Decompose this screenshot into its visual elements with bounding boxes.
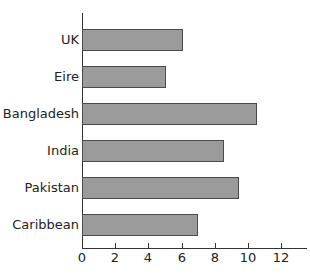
x-tick-label-2: 2 [100,250,130,266]
bar-india [82,140,224,162]
x-tick-label-0: 0 [67,250,97,266]
x-tick-6 [182,243,183,249]
category-label-pakistan: Pakistan [25,180,79,196]
category-label-eire: Eire [54,69,79,85]
category-label-uk: UK [61,32,79,48]
x-tick-4 [148,243,149,249]
bar-chart: UK Eire Bangladesh India Pakistan Caribb… [0,0,310,277]
x-tick-0 [82,243,83,249]
category-label-caribbean: Caribbean [12,217,79,233]
category-label-bangladesh: Bangladesh [3,106,79,122]
bar-pakistan [82,177,239,199]
category-label-india: India [47,143,79,159]
x-tick-8 [215,243,216,249]
x-tick-label-8: 8 [200,250,230,266]
bar-uk [82,29,183,51]
x-tick-label-6: 6 [167,250,197,266]
bar-caribbean [82,214,198,236]
bar-bangladesh [82,103,257,125]
x-tick-12 [281,243,282,249]
x-tick-label-4: 4 [133,250,163,266]
bar-eire [82,66,166,88]
x-tick-label-12: 12 [266,250,296,266]
x-tick-2 [115,243,116,249]
x-tick-label-10: 10 [233,250,263,266]
x-tick-10 [248,243,249,249]
